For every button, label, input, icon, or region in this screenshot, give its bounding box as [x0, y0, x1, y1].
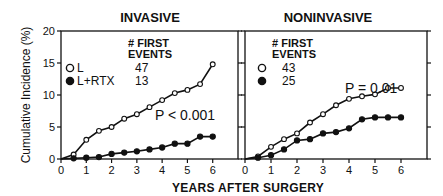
data-point — [385, 115, 390, 120]
legend-count: 47 — [135, 61, 149, 75]
data-point — [122, 116, 127, 121]
data-point — [71, 156, 76, 161]
p-value: P < 0.001 — [155, 107, 215, 123]
data-point — [210, 62, 215, 67]
data-point — [109, 125, 114, 130]
data-point — [198, 82, 203, 87]
x-tick-label: 5 — [372, 164, 378, 176]
legend-header: EVENTS — [128, 48, 172, 60]
y-tick-label: 5 — [49, 121, 55, 133]
data-point — [294, 138, 299, 143]
data-point — [84, 155, 89, 160]
data-point — [147, 105, 152, 110]
panel-invasive: INVASIVE051015200123456# FIRSTEVENTSL47L… — [43, 10, 242, 176]
data-point — [334, 103, 339, 108]
data-point — [398, 115, 403, 120]
x-tick-label: 6 — [398, 164, 404, 176]
data-point — [333, 130, 338, 135]
filled-circle-icon — [258, 77, 265, 84]
y-tick-label: 20 — [43, 25, 55, 37]
panel-noninvasive: NONINVASIVE0123456# FIRSTEVENTS4325P = 0… — [241, 10, 431, 176]
legend-count: 43 — [282, 61, 296, 75]
x-tick-label: 6 — [210, 164, 216, 176]
data-point — [359, 117, 364, 122]
data-point — [160, 98, 165, 103]
legend-count: 25 — [282, 74, 296, 88]
data-point — [255, 155, 260, 160]
data-point — [96, 154, 101, 159]
x-tick-label: 3 — [134, 164, 140, 176]
legend-header: EVENTS — [272, 48, 316, 60]
x-tick-label: 0 — [242, 164, 248, 176]
x-tick-label: 2 — [294, 164, 300, 176]
open-circle-icon — [258, 64, 265, 71]
x-tick-label: 4 — [346, 164, 352, 176]
x-tick-label: 4 — [159, 164, 165, 176]
data-point — [282, 137, 287, 142]
legend-label: L+RTX — [77, 74, 114, 88]
data-point — [268, 153, 273, 158]
data-point — [97, 128, 102, 133]
data-point — [281, 147, 286, 152]
y-tick-label: 10 — [43, 89, 55, 101]
x-axis-label: YEARS AFTER SURGERY — [172, 181, 324, 195]
open-circle-icon — [66, 64, 73, 71]
data-point — [160, 145, 165, 150]
data-point — [269, 144, 274, 149]
data-point — [346, 126, 351, 131]
data-point — [399, 86, 404, 91]
data-point — [185, 141, 190, 146]
data-point — [134, 112, 139, 117]
x-tick-label: 3 — [320, 164, 326, 176]
legend-count: 13 — [135, 74, 149, 88]
data-point — [185, 87, 190, 92]
x-tick-label: 1 — [83, 164, 89, 176]
data-point — [147, 147, 152, 152]
data-point — [295, 131, 300, 136]
series-line-open — [245, 88, 401, 159]
data-point — [321, 112, 326, 117]
y-tick-label: 15 — [43, 57, 55, 69]
panel-title: INVASIVE — [120, 10, 180, 25]
data-point — [308, 120, 313, 125]
x-tick-label: 5 — [184, 164, 190, 176]
data-point — [197, 134, 202, 139]
data-point — [109, 151, 114, 156]
data-point — [210, 134, 215, 139]
data-point — [172, 141, 177, 146]
data-point — [320, 131, 325, 136]
y-tick-label: 0 — [49, 153, 55, 165]
filled-circle-icon — [66, 77, 73, 84]
figure: Cumulative Incidence (%) YEARS AFTER SUR… — [0, 0, 443, 196]
data-point — [307, 137, 312, 142]
p-value: P = 0.01 — [345, 80, 398, 96]
series-line-filled — [245, 117, 401, 159]
data-point — [134, 149, 139, 154]
y-axis-label: Cumulative Incidence (%) — [19, 27, 33, 164]
panel-title: NONINVASIVE — [284, 10, 373, 25]
x-tick-label: 2 — [109, 164, 115, 176]
data-point — [172, 91, 177, 96]
x-tick-label: 1 — [268, 164, 274, 176]
x-tick-label: 0 — [58, 164, 64, 176]
data-point — [122, 150, 127, 155]
data-point — [84, 137, 89, 142]
legend-label: L — [77, 61, 84, 75]
data-point — [347, 96, 352, 101]
data-point — [372, 115, 377, 120]
